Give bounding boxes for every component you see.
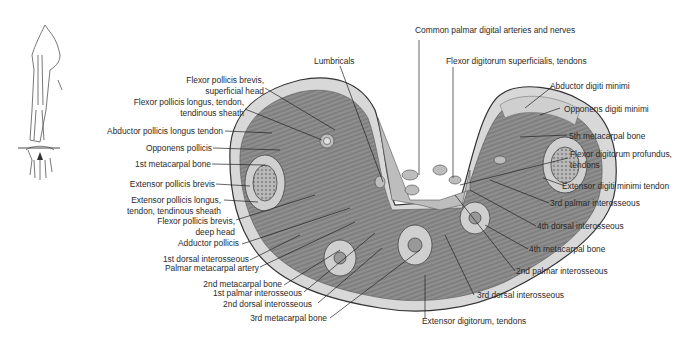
label-4th-dorsal-interosseous: 4th dorsal interosseous (537, 221, 624, 232)
label-flexor-digitorum-superficialis: Flexor digitorum superficialis, tendons (446, 56, 587, 67)
label-lumbricals: Lumbricals (314, 56, 355, 67)
label-abductor-digiti-minimi: Abductor digiti minimi (550, 81, 630, 92)
label-flexor-pollicis-longus: Flexor pollicis longus, tendon,tendinous… (134, 97, 244, 119)
label-extensor-pollicis-brevis: Extensor pollicis brevis (130, 179, 215, 190)
label-4th-metacarpal: 4th metacarpal bone (529, 244, 605, 255)
label-opponens-digiti-minimi: Opponens digiti minimi (564, 104, 649, 115)
label-3rd-palmar-interosseous: 3rd palmar interosseous (550, 198, 640, 209)
label-extensor-digitorum: Extensor digitorum, tendons (422, 316, 526, 327)
label-flexor-pollicis-brevis-superficial: Flexor pollicis brevis,superficial head (186, 75, 264, 97)
label-3rd-dorsal-interosseous: 3rd dorsal interosseous (477, 290, 564, 301)
label-palmar-metacarpal-artery: Palmar metacarpal artery (165, 263, 259, 274)
label-common-palmar-digital: Common palmar digital arteries and nerve… (415, 25, 575, 36)
label-3rd-metacarpal: 3rd metacarpal bone (250, 313, 327, 324)
label-1st-metacarpal: 1st metacarpal bone (135, 159, 211, 170)
label-adductor-pollicis: Adductor pollicis (178, 238, 239, 249)
label-flexor-digitorum-profundus: Flexor digitorum profundus,tendons (570, 149, 672, 171)
label-extensor-pollicis-longus: Extensor pollicis longus,tendon, tendino… (127, 195, 221, 217)
hand-cross-section (0, 0, 697, 342)
label-2nd-palmar-interosseous: 2nd palmar interosseous (516, 266, 608, 277)
label-1st-palmar-interosseous: 1st palmar interosseous (213, 288, 302, 299)
label-abductor-pollicis-longus: Abductor pollicis longus tendon (107, 126, 223, 137)
label-opponens-pollicis: Opponens pollicis (146, 143, 212, 154)
label-2nd-dorsal-interosseous: 2nd dorsal interosseous (223, 299, 312, 310)
label-5th-metacarpal: 5th metacarpal bone (569, 131, 645, 142)
label-extensor-digiti-minimi: Extensor digiti minimi tendon (562, 181, 669, 192)
label-flexor-pollicis-brevis-deep: Flexor pollicis brevis,deep head (157, 216, 235, 238)
